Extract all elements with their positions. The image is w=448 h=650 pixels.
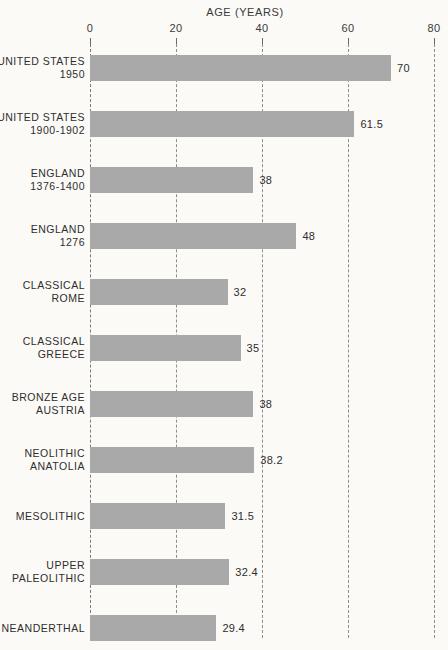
x-tick-label: 60 [342,22,355,34]
x-tick-label: 40 [256,22,269,34]
bar-value-label: 38 [259,391,272,417]
category-label-line1: UNITED STATES [0,55,85,68]
bar-row: UPPERPALEOLITHIC32.4 [0,559,448,585]
category-label-line2: 1900-1902 [0,124,85,137]
category-label: UPPERPALEOLITHIC [0,559,85,585]
category-label-line1: CLASSICAL [0,279,85,292]
category-label-line1: UNITED STATES [0,111,85,124]
category-label-line1: NEANDERTHAL [0,622,85,635]
category-label-line2: PALEOLITHIC [0,572,85,585]
category-label-line2: ANATOLIA [0,460,85,473]
x-tick-label: 20 [170,22,183,34]
bar [90,391,253,417]
category-label: MESOLITHIC [0,510,85,523]
category-label: NEANDERTHAL [0,622,85,635]
bar [90,615,216,641]
category-label-line2: 1376-1400 [0,180,85,193]
bar [90,279,228,305]
category-label-line1: ENGLAND [0,223,85,236]
category-label: CLASSICALROME [0,279,85,305]
bar [90,223,296,249]
x-tick-label: 80 [428,22,441,34]
bar-value-label: 32 [234,279,247,305]
bar-chart: AGE (YEARS) 020406080 UNITED STATES19507… [0,0,448,650]
bar-value-label: 35 [247,335,260,361]
x-tick-label: 0 [87,22,93,34]
bar-value-label: 31.5 [231,503,254,529]
bar-row: MESOLITHIC31.5 [0,503,448,529]
bar-row: ENGLAND127648 [0,223,448,249]
category-label: ENGLAND1376-1400 [0,167,85,193]
bar-row: NEANDERTHAL29.4 [0,615,448,641]
bar [90,503,225,529]
category-label: ENGLAND1276 [0,223,85,249]
bar-row: ENGLAND1376-140038 [0,167,448,193]
category-label-line1: UPPER [0,559,85,572]
bar [90,111,354,137]
bar [90,55,391,81]
bar-row: CLASSICALGREECE35 [0,335,448,361]
category-label: UNITED STATES1900-1902 [0,111,85,137]
bar [90,335,241,361]
category-label: BRONZE AGEAUSTRIA [0,391,85,417]
category-label: UNITED STATES1950 [0,55,85,81]
bar [90,447,254,473]
bar-row: CLASSICALROME32 [0,279,448,305]
category-label-line1: ENGLAND [0,167,85,180]
category-label-line2: ROME [0,292,85,305]
bar-value-label: 70 [397,55,410,81]
category-label: CLASSICALGREECE [0,335,85,361]
category-label-line1: MESOLITHIC [0,510,85,523]
category-label-line2: GREECE [0,348,85,361]
bar-value-label: 29.4 [222,615,245,641]
bar-row: BRONZE AGEAUSTRIA38 [0,391,448,417]
bar [90,167,253,193]
bar-row: NEOLITHICANATOLIA38.2 [0,447,448,473]
category-label-line1: CLASSICAL [0,335,85,348]
bar-row: UNITED STATES1900-190261.5 [0,111,448,137]
bar-value-label: 32.4 [235,559,258,585]
chart-title: AGE (YEARS) [0,6,448,18]
category-label-line1: NEOLITHIC [0,447,85,460]
bar-value-label: 48 [302,223,315,249]
category-label-line2: AUSTRIA [0,404,85,417]
bar-row: UNITED STATES195070 [0,55,448,81]
bar [90,559,229,585]
bar-value-label: 61.5 [360,111,383,137]
category-label-line1: BRONZE AGE [0,391,85,404]
bar-value-label: 38 [259,167,272,193]
category-label: NEOLITHICANATOLIA [0,447,85,473]
category-label-line2: 1950 [0,68,85,81]
bar-value-label: 38.2 [260,447,283,473]
category-label-line2: 1276 [0,236,85,249]
